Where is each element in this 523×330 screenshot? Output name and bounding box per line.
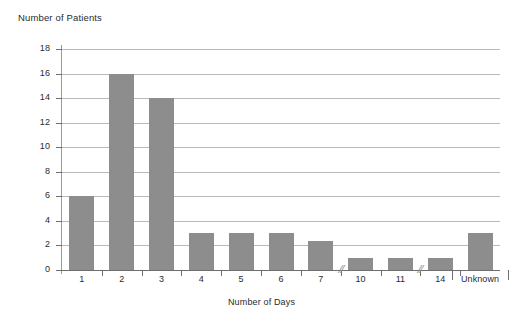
y-axis-tick-label: 10: [24, 141, 50, 151]
bar: [468, 233, 493, 270]
x-axis-tick: [452, 270, 453, 280]
x-axis-tick-label: 3: [142, 274, 182, 284]
x-axis-title: Number of Days: [0, 297, 523, 307]
bar: [428, 258, 453, 270]
y-axis-tick-label: 4: [24, 215, 50, 225]
x-axis-tick-label: 10: [341, 274, 381, 284]
y-axis-tick-label: 6: [24, 190, 50, 200]
y-axis-tick-label: 14: [24, 92, 50, 102]
bar: [189, 233, 214, 270]
x-axis-tick-label: 2: [102, 274, 142, 284]
bar: [229, 233, 254, 270]
y-axis-tick-label: 8: [24, 166, 50, 176]
x-axis-tick-label: 6: [261, 274, 301, 284]
x-axis-tick-label: 5: [221, 274, 261, 284]
y-axis-tick-label: 18: [24, 43, 50, 53]
bar: [149, 98, 174, 270]
y-axis-tick-label: 12: [24, 117, 50, 127]
x-axis-tick-label: 1: [62, 274, 102, 284]
y-axis-title: Number of Patients: [18, 12, 102, 23]
x-axis-tick-label: 4: [181, 274, 221, 284]
bars-layer: [62, 49, 500, 270]
y-axis-tick-label: 2: [24, 239, 50, 249]
x-axis-tick: [508, 270, 509, 280]
y-axis-tick-label: 0: [24, 264, 50, 274]
bar-chart: Number of Patients 024681012141618 12345…: [0, 0, 523, 330]
bar: [269, 233, 294, 270]
bar: [109, 74, 134, 270]
x-axis-line: [62, 270, 500, 271]
bar: [308, 241, 333, 270]
y-axis-tick-label: 16: [24, 68, 50, 78]
bar: [69, 196, 94, 270]
bar: [348, 258, 373, 270]
bar: [388, 258, 413, 270]
x-axis-tick-label: Unknown: [452, 274, 508, 284]
